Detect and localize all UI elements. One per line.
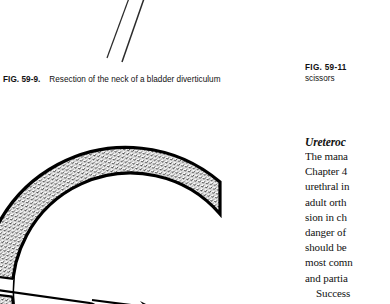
instrument-shafts-svg — [60, 0, 190, 66]
body-text-line: The mana — [305, 149, 390, 164]
body-text-line: sion in ch — [305, 210, 390, 225]
figure-number-label: FIG. 59-9. — [3, 75, 40, 84]
white-cross-band — [0, 272, 100, 304]
diverticulum-wall-band — [0, 147, 220, 304]
section-heading: Ureteroc — [305, 136, 390, 149]
instrument-shaft-right — [122, 0, 147, 62]
body-text-line: should be — [305, 240, 390, 255]
scanned-textbook-page: FIG. 59-9.Resection of the neck of a bla… — [0, 0, 390, 304]
figure-caption-continuation: scissors — [305, 74, 347, 83]
bladder-diverticulum-illustration — [0, 104, 240, 304]
body-text-line: adult orth — [305, 195, 390, 210]
instrument-shafts-illustration — [60, 0, 190, 66]
body-text-column: Ureteroc The mana Chapter 4 urethral in … — [305, 136, 390, 301]
body-text-line: and partia — [305, 271, 390, 286]
figure-caption-59-11: FIG. 59-11 scissors — [305, 63, 347, 83]
figure-caption-text: Resection of the neck of a bladder diver… — [49, 75, 220, 84]
instrument-shaft-left — [107, 0, 132, 58]
white-cross-band-group — [0, 272, 100, 304]
body-text-line: Chapter 4 — [305, 164, 390, 179]
body-text-line: Success — [305, 286, 390, 301]
figure-number-label-59-11: FIG. 59-11 — [305, 63, 347, 72]
body-text-line: urethral in — [305, 179, 390, 194]
body-text-line: most comn — [305, 255, 390, 270]
body-text-line: danger of — [305, 225, 390, 240]
figure-caption-59-9: FIG. 59-9.Resection of the neck of a bla… — [3, 74, 221, 84]
instrument-tip-line — [92, 300, 146, 304]
bladder-diverticulum-svg — [0, 104, 240, 304]
